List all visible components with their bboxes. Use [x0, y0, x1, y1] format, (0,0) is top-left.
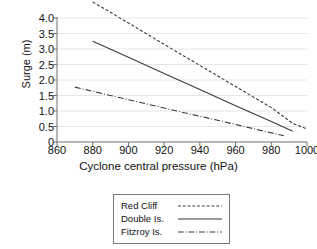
x-tick-label: 940 [191, 144, 209, 156]
x-tick-label: 860 [48, 144, 66, 156]
legend-line-sample [177, 201, 223, 211]
x-axis-tick-labels: 8608809009209409609801000 [0, 144, 317, 160]
legend-entries: Red CliffDouble Is.Fitzroy Is. [114, 195, 229, 243]
legend-item: Red Cliff [121, 199, 223, 212]
x-axis-title: Cyclone central pressure (hPa) [0, 160, 317, 172]
x-tick-label: 880 [84, 144, 102, 156]
x-tick-label: 980 [262, 144, 280, 156]
surge-vs-pressure-figure: Surge (m) 00.51.01.52.02.53.03.54.0 8608… [0, 0, 317, 249]
plot-area: Surge (m) 00.51.01.52.02.53.03.54.0 8608… [0, 0, 317, 185]
chart-legend: Red CliffDouble Is.Fitzroy Is. [113, 194, 230, 244]
legend-line-sample [177, 227, 223, 237]
legend-item: Fitzroy Is. [121, 226, 223, 239]
gridlines [57, 18, 307, 127]
x-tick-label: 920 [155, 144, 173, 156]
x-tick-label: 960 [226, 144, 244, 156]
legend-line-sample [177, 214, 223, 224]
series-line [93, 2, 307, 129]
legend-item-label: Red Cliff [121, 201, 177, 211]
legend-item-label: Double Is. [121, 214, 177, 224]
data-series-lines [75, 2, 307, 136]
legend-item-label: Fitzroy Is. [121, 227, 177, 237]
x-tick-label: 900 [119, 144, 137, 156]
series-line [93, 41, 293, 131]
legend-item: Double Is. [121, 212, 223, 225]
y-axis-ticks [53, 18, 57, 142]
x-tick-label: 1000 [295, 144, 317, 156]
